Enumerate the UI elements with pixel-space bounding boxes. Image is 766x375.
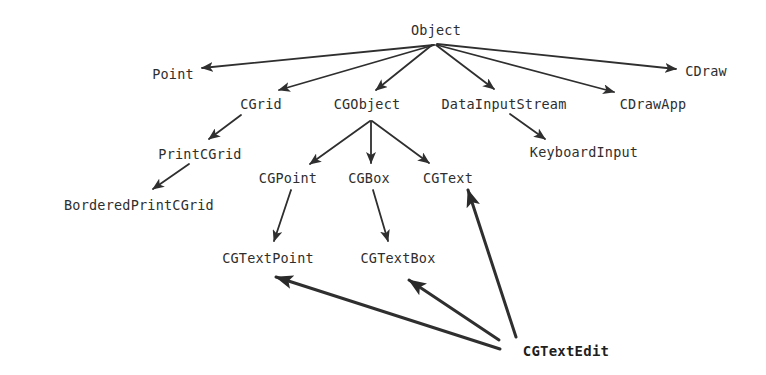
class-node-bordered-print-c-grid: BorderedPrintCGrid xyxy=(64,197,214,213)
class-node-cg-text: CGText xyxy=(423,170,473,186)
arrow-object-to-c-grid xyxy=(279,45,434,90)
arrow-object-to-cg-object xyxy=(376,45,432,90)
arrow-cg-object-to-cg-text xyxy=(372,121,429,163)
arrow-cg-text-edit-to-cg-text-box xyxy=(409,280,499,340)
inheritance-arrows xyxy=(153,44,676,349)
class-node-cg-box: CGBox xyxy=(348,170,390,186)
class-node-cg-text-edit: CGTextEdit xyxy=(523,343,609,359)
class-node-cg-text-box: CGTextBox xyxy=(361,250,436,266)
arrow-cg-text-edit-to-cg-text xyxy=(468,190,516,337)
class-node-cg-object: CGObject xyxy=(334,96,401,112)
arrow-cg-point-to-cg-text-point xyxy=(274,190,291,241)
class-node-data-input-stream: DataInputStream xyxy=(442,96,567,112)
arrow-print-c-grid-to-bordered-print-c-grid xyxy=(153,164,189,189)
class-node-print-c-grid: PrintCGrid xyxy=(158,146,241,162)
arrow-cg-box-to-cg-text-box xyxy=(373,190,388,241)
class-node-point: Point xyxy=(152,66,194,82)
arrow-object-to-point xyxy=(202,45,434,68)
class-node-cg-point: CGPoint xyxy=(259,170,317,186)
class-node-object: Object xyxy=(411,22,461,38)
arrow-object-to-c-draw xyxy=(437,44,676,69)
class-node-cg-text-point: CGTextPoint xyxy=(222,250,314,266)
arrow-object-to-c-draw-app xyxy=(437,45,614,92)
edges-layer xyxy=(0,0,766,375)
class-node-c-draw: CDraw xyxy=(685,63,727,79)
arrow-cg-object-to-cg-point xyxy=(310,121,370,164)
arrow-c-grid-to-print-c-grid xyxy=(209,115,241,139)
arrow-data-input-stream-to-keyboard-input xyxy=(510,114,545,139)
class-node-keyboard-input: KeyboardInput xyxy=(530,144,638,160)
class-node-c-grid: CGrid xyxy=(240,96,282,112)
class-node-c-draw-app: CDrawApp xyxy=(620,96,687,112)
class-hierarchy-diagram: ObjectPointCDrawCGridCGObjectDataInputSt… xyxy=(0,0,766,375)
arrow-cg-text-edit-to-cg-text-point xyxy=(276,277,500,349)
